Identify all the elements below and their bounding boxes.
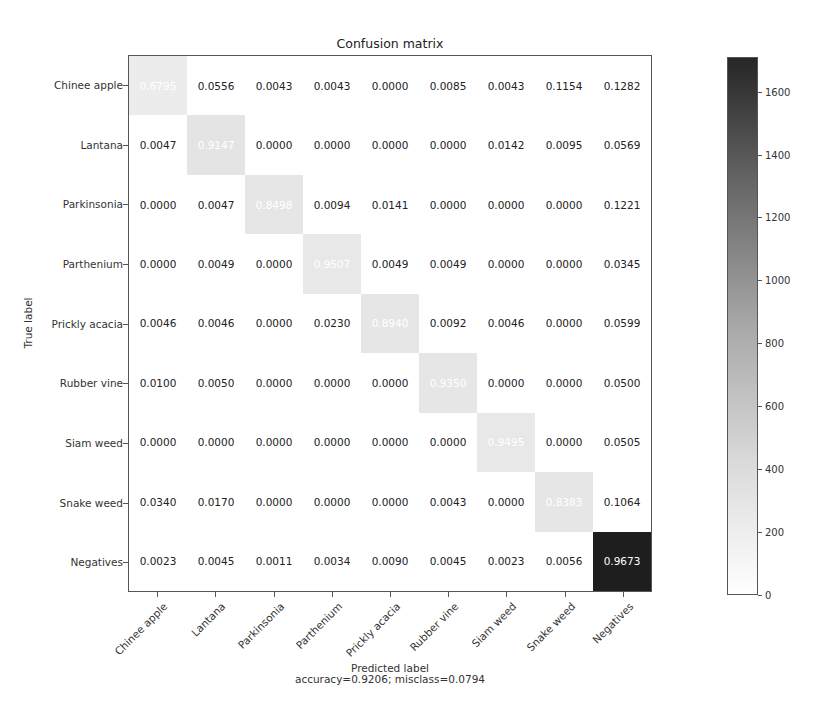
matrix-cell: 0.0345 [593,234,651,293]
colorbar-tick-label: 1400 [765,149,790,160]
matrix-cell: 0.0046 [129,294,187,353]
matrix-cell: 0.0050 [187,353,245,412]
y-tick-label: Prickly acacia [52,318,123,330]
matrix-cell: 0.0000 [419,115,477,174]
matrix-cell-diagonal: 0.8383 [535,472,593,531]
matrix-cell: 0.0000 [245,472,303,531]
y-tick [123,503,128,504]
matrix-cell: 0.0049 [361,234,419,293]
matrix-cell: 0.0000 [361,413,419,472]
matrix-cell: 0.0170 [187,472,245,531]
matrix-cell: 0.0000 [303,115,361,174]
y-tick [123,562,128,563]
y-tick [123,324,128,325]
matrix-cell: 0.0046 [477,294,535,353]
matrix-cell: 0.1154 [535,56,593,115]
colorbar-tick [758,469,762,470]
matrix-cell: 0.0043 [245,56,303,115]
x-tick [623,592,624,597]
matrix-cell: 0.0047 [187,175,245,234]
matrix-cell: 0.0000 [477,175,535,234]
matrix-cell: 0.0569 [593,115,651,174]
matrix-cell: 0.0000 [361,353,419,412]
matrix-cell: 0.1221 [593,175,651,234]
matrix-cell: 0.0046 [187,294,245,353]
colorbar-tick-label: 400 [765,464,784,475]
y-tick [123,443,128,444]
matrix-cell: 0.0340 [129,472,187,531]
matrix-cell: 0.0000 [535,294,593,353]
matrix-cell-diagonal: 0.9147 [187,115,245,174]
x-tick [506,592,507,597]
y-tick [123,145,128,146]
colorbar-tick-label: 1600 [765,86,790,97]
matrix-cell: 0.0056 [535,532,593,591]
x-tick-label: Rubber vine [408,600,461,653]
matrix-cell: 0.0000 [361,115,419,174]
matrix-cell-diagonal: 0.8498 [245,175,303,234]
matrix-cell: 0.0000 [535,353,593,412]
matrix-cell: 0.0000 [129,234,187,293]
accuracy-summary: accuracy=0.9206; misclass=0.0794 [128,674,652,685]
matrix-cell: 0.0034 [303,532,361,591]
colorbar-tick [758,92,762,93]
x-tick-label: Negatives [590,600,636,646]
matrix-cell: 0.0094 [303,175,361,234]
x-tick [565,592,566,597]
matrix-cell: 0.0000 [535,413,593,472]
x-tick-label: Siam weed [470,600,519,649]
y-tick-label: Parthenium [63,258,123,270]
chart-title: Confusion matrix [128,36,652,51]
matrix-cell: 0.0230 [303,294,361,353]
colorbar-tick-label: 200 [765,527,784,538]
matrix-cell: 0.0000 [245,115,303,174]
x-tick [448,592,449,597]
matrix-cell: 0.0023 [129,532,187,591]
y-tick [123,264,128,265]
colorbar-tick [758,155,762,156]
matrix-cell: 0.0049 [419,234,477,293]
matrix-cell: 0.0000 [129,175,187,234]
y-tick [123,383,128,384]
matrix-cell: 0.0000 [419,413,477,472]
matrix-cell: 0.0045 [419,532,477,591]
matrix-cell: 0.0000 [245,353,303,412]
matrix-cell-diagonal: 0.9350 [419,353,477,412]
matrix-cell: 0.0023 [477,532,535,591]
x-tick [274,592,275,597]
matrix-cell: 0.0011 [245,532,303,591]
colorbar [727,57,758,595]
matrix-cell: 0.0599 [593,294,651,353]
y-tick-label: Negatives [70,556,123,568]
y-tick-label: Snake weed [60,497,123,509]
matrix-cell: 0.0043 [477,56,535,115]
matrix-cell-diagonal: 0.9495 [477,413,535,472]
x-tick-label: Chinee apple [112,600,169,657]
x-tick-label: Parkinsonia [235,600,286,651]
x-tick-label: Snake weed [524,600,577,653]
matrix-cell: 0.0000 [303,353,361,412]
colorbar-tick-label: 1200 [765,212,790,223]
matrix-cell: 0.1064 [593,472,651,531]
matrix-cell-diagonal: 0.6795 [129,56,187,115]
matrix-cell: 0.0000 [303,472,361,531]
colorbar-tick [758,532,762,533]
y-tick-label: Rubber vine [60,377,123,389]
colorbar-tick-label: 1000 [765,275,790,286]
x-tick [157,592,158,597]
matrix-cell: 0.0092 [419,294,477,353]
matrix-cell: 0.0141 [361,175,419,234]
matrix-cell: 0.0049 [187,234,245,293]
matrix-cell: 0.0000 [187,413,245,472]
matrix-cell: 0.0000 [361,56,419,115]
matrix-cell: 0.0000 [419,175,477,234]
matrix-cell: 0.0047 [129,115,187,174]
matrix-cell: 0.0000 [303,413,361,472]
y-axis-title: True label [22,297,34,348]
colorbar-tick [758,217,762,218]
x-tick [390,592,391,597]
matrix-cell: 0.0505 [593,413,651,472]
matrix-cell: 0.0000 [361,472,419,531]
matrix-cell: 0.0085 [419,56,477,115]
x-tick [332,592,333,597]
